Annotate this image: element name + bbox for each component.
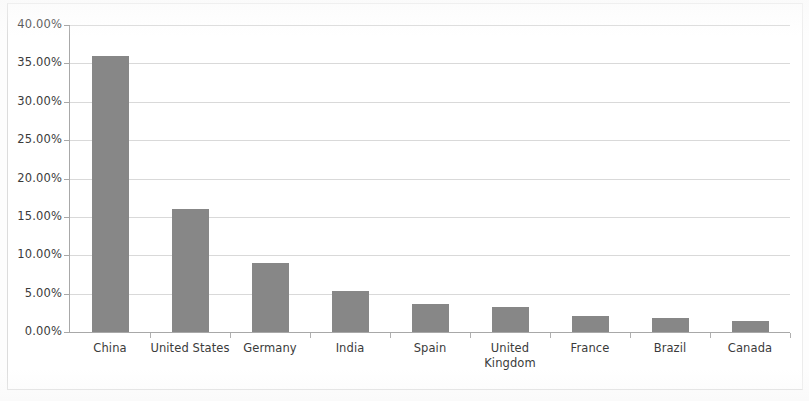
y-axis-tick — [64, 25, 70, 26]
chart-screenshot: 0.00%5.00%10.00%15.00%20.00%25.00%30.00%… — [0, 0, 809, 401]
x-axis-tick — [230, 333, 231, 338]
gridline — [70, 332, 790, 333]
y-axis-tick-label: 15.00% — [0, 209, 62, 223]
y-axis-tick-label: 0.00% — [0, 324, 62, 338]
bar — [652, 318, 689, 332]
x-axis-tick — [390, 333, 391, 338]
gridline — [70, 63, 790, 64]
y-axis-tick-label: 30.00% — [0, 94, 62, 108]
x-axis-category-label: China — [70, 341, 150, 356]
y-axis-tick — [64, 63, 70, 64]
y-axis-tick-label: 25.00% — [0, 132, 62, 146]
bar — [412, 304, 449, 332]
y-axis-tick — [64, 255, 70, 256]
x-axis-tick — [470, 333, 471, 338]
y-axis-tick — [64, 332, 70, 333]
y-axis-tick-label: 20.00% — [0, 171, 62, 185]
y-axis-tick — [64, 217, 70, 218]
x-axis-tick — [310, 333, 311, 338]
y-axis-labels: 0.00%5.00%10.00%15.00%20.00%25.00%30.00%… — [0, 0, 62, 401]
gridline — [70, 102, 790, 103]
x-axis-tick — [550, 333, 551, 338]
gridline — [70, 179, 790, 180]
y-axis-tick — [64, 179, 70, 180]
x-axis-tick — [630, 333, 631, 338]
x-axis-category-label: Germany — [230, 341, 310, 356]
bar — [332, 291, 369, 332]
y-axis-tick-label: 40.00% — [0, 17, 62, 31]
bar — [172, 209, 209, 332]
bar — [492, 307, 529, 332]
x-axis-category-label: France — [550, 341, 630, 356]
plot-area — [70, 25, 790, 332]
chart-canvas: 0.00%5.00%10.00%15.00%20.00%25.00%30.00%… — [0, 0, 809, 401]
y-axis-tick — [64, 294, 70, 295]
x-axis-category-label: United States — [150, 341, 230, 356]
x-axis-tick — [710, 333, 711, 338]
gridline — [70, 25, 790, 26]
x-axis-category-label: India — [310, 341, 390, 356]
x-axis-category-label: Brazil — [630, 341, 710, 356]
bar — [732, 321, 769, 333]
x-axis-category-label: United Kingdom — [470, 341, 550, 370]
y-axis-tick-label: 10.00% — [0, 247, 62, 261]
bar — [572, 316, 609, 332]
y-axis-tick-label: 5.00% — [0, 286, 62, 300]
bar — [92, 56, 129, 332]
y-axis-tick — [64, 140, 70, 141]
x-axis-tick — [150, 333, 151, 338]
x-axis-tick — [790, 333, 791, 338]
y-axis-tick — [64, 102, 70, 103]
y-axis-tick-label: 35.00% — [0, 55, 62, 69]
x-axis-category-label: Spain — [390, 341, 470, 356]
x-axis-category-label: Canada — [710, 341, 790, 356]
bar — [252, 263, 289, 332]
gridline — [70, 140, 790, 141]
